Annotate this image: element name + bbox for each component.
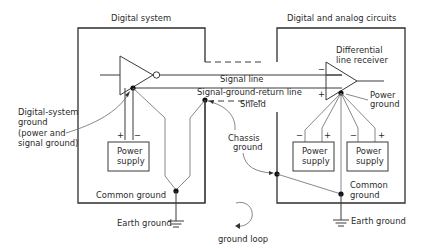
ground-loop-arrow-icon [235, 202, 252, 229]
title-digital-analog: Digital and analog circuits [287, 13, 396, 23]
svg-text:Digital-system: Digital-system [18, 107, 78, 117]
svg-text:ground: ground [370, 99, 400, 109]
power-ground-pointer [346, 94, 368, 100]
svg-text:+: + [117, 130, 124, 140]
svg-text:ground: ground [233, 142, 263, 152]
svg-text:(power and: (power and [18, 128, 66, 138]
line-driver-symbol [100, 56, 160, 95]
signal-line-label: Signal line [220, 74, 264, 84]
power-supply-right-1: Power supply − + [293, 130, 334, 171]
svg-text:+: + [318, 89, 325, 99]
svg-text:−: − [134, 130, 141, 140]
earth-ground-left-label: Earth ground [117, 218, 172, 228]
svg-text:supply: supply [117, 156, 145, 166]
svg-text:ground: ground [350, 190, 380, 200]
svg-text:+: + [324, 130, 331, 140]
svg-text:ground: ground [18, 117, 48, 127]
svg-text:Power: Power [302, 146, 328, 156]
earth-ground-right-symbol [333, 194, 349, 226]
chassis-pointer-top [211, 102, 235, 130]
chassis-pointer-bottom [243, 153, 272, 173]
svg-text:−: − [350, 130, 357, 140]
common-ground-left-label: Common ground [96, 190, 166, 200]
signal-ground-return-label: Signal-ground-return line [197, 87, 302, 97]
power-supply-right-2: Power supply − + [347, 130, 388, 171]
svg-text:−: − [296, 130, 303, 140]
ground-loop-diagram: Digital system Digital and analog circui… [0, 0, 422, 249]
earth-ground-right-label: Earth ground [351, 216, 406, 226]
svg-text:Differential: Differential [336, 45, 383, 55]
svg-text:Common: Common [350, 180, 388, 190]
svg-text:supply: supply [356, 156, 384, 166]
ground-loop-label: ground loop [218, 234, 268, 244]
svg-text:Power: Power [356, 146, 382, 156]
svg-text:−: − [318, 64, 325, 74]
svg-text:signal ground): signal ground) [18, 138, 78, 148]
power-supply-left: Power supply + − [108, 130, 149, 171]
wire-shield-to-common [176, 100, 205, 190]
svg-text:line receiver: line receiver [336, 55, 388, 65]
svg-text:Power: Power [117, 146, 143, 156]
title-digital-system: Digital system [111, 13, 171, 23]
svg-text:supply: supply [302, 156, 330, 166]
svg-text:+: + [378, 130, 385, 140]
shield-label: Shield [240, 99, 266, 109]
